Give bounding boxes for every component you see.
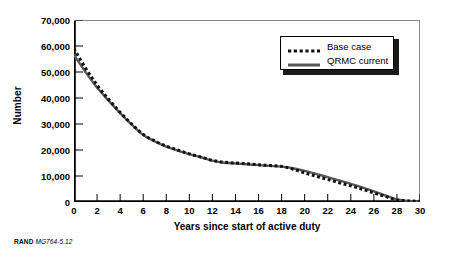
legend-entry-qrmc-current: QRMC current [281, 54, 393, 68]
y-tick-label: 30,000 [22, 119, 70, 130]
x-tick-label: 6 [141, 205, 146, 216]
y-tick-label: 10,000 [22, 171, 70, 182]
y-tick-label: 70,000 [22, 15, 70, 26]
y-tick-label: 20,000 [22, 145, 70, 156]
legend-entry-base-case: Base case [281, 40, 393, 54]
legend-box: Base case QRMC current [280, 36, 394, 70]
x-tick-label: 30 [415, 205, 426, 216]
y-tick-label: 0 [22, 197, 70, 208]
x-axis-tick-labels: 024681012141618202224262830 [74, 205, 420, 219]
solid-line-swatch [287, 56, 321, 66]
y-tick-label: 60,000 [22, 41, 70, 52]
x-tick-label: 24 [346, 205, 357, 216]
y-tick-label: 40,000 [22, 93, 70, 104]
x-axis-title: Years since start of active duty [74, 221, 420, 232]
x-tick-label: 16 [253, 205, 264, 216]
legend: Base case QRMC current [280, 36, 396, 72]
legend-label-base-case: Base case [327, 42, 371, 52]
x-tick-label: 18 [276, 205, 287, 216]
figure-footer: RAND MG764-5.12 [14, 238, 73, 245]
x-tick-label: 0 [71, 205, 76, 216]
x-tick-label: 28 [392, 205, 403, 216]
x-tick-label: 20 [299, 205, 310, 216]
footer-rand-mark: RAND [14, 238, 34, 245]
dotted-line-swatch [287, 42, 321, 52]
x-tick-label: 2 [94, 205, 99, 216]
y-tick-label: 50,000 [22, 67, 70, 78]
series-line-qrmc-current [74, 55, 420, 201]
x-tick-label: 8 [164, 205, 169, 216]
dotted-line-icon [287, 46, 321, 56]
x-tick-label: 26 [369, 205, 380, 216]
y-axis-tick-labels: 010,00020,00030,00040,00050,00060,00070,… [22, 20, 70, 202]
x-tick-label: 12 [207, 205, 218, 216]
x-tick-label: 10 [184, 205, 195, 216]
legend-label-qrmc-current: QRMC current [327, 56, 388, 66]
x-tick-label: 22 [322, 205, 333, 216]
y-axis-title-label: Number [12, 86, 23, 124]
figure-chart-mg764-5-12: Number 010,00020,00030,00040,00050,00060… [0, 0, 450, 259]
x-tick-label: 14 [230, 205, 241, 216]
footer-figure-id: MG764-5.12 [35, 238, 72, 245]
solid-line-icon [287, 60, 321, 70]
x-tick-label: 4 [117, 205, 122, 216]
